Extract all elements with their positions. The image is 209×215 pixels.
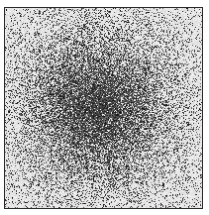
density-plot-frame [4,7,203,209]
figure-stage [0,0,209,215]
density-noise-canvas [5,8,202,208]
